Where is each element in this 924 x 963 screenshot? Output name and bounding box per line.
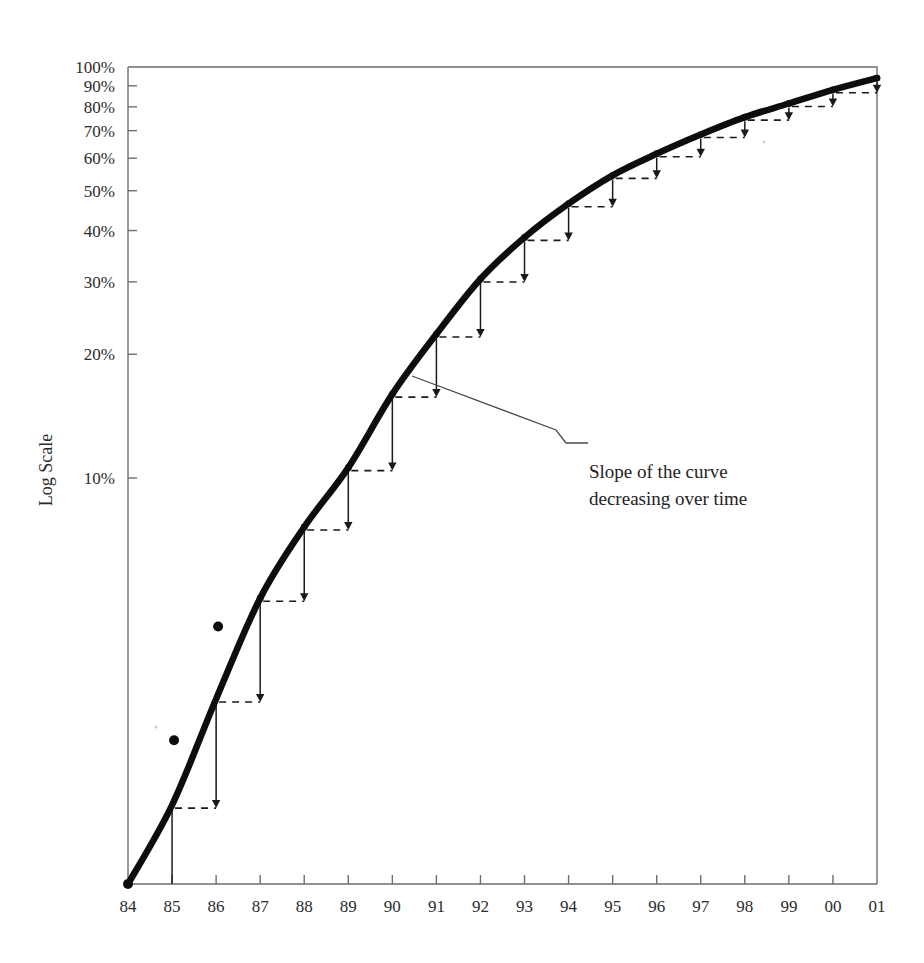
curve-point-dot <box>785 100 792 107</box>
curve-point-dot <box>389 391 396 398</box>
annotation-line-1: Slope of the curve <box>589 461 728 482</box>
chart-background <box>0 0 924 963</box>
y-tick-label: 40% <box>84 222 115 241</box>
y-tick-label: 70% <box>84 122 115 141</box>
scatter-dot <box>169 735 179 745</box>
curve-point-dot <box>830 86 837 93</box>
y-axis-title: Log Scale <box>36 434 56 506</box>
curve-point-dot <box>653 150 660 157</box>
y-tick-label: 80% <box>84 98 115 117</box>
x-tick-label: 96 <box>648 897 665 916</box>
y-tick-label: 50% <box>84 182 115 201</box>
curve-point-dot <box>565 200 572 207</box>
annotation-line-2: decreasing over time <box>589 488 747 509</box>
x-tick-label: 85 <box>164 897 181 916</box>
x-tick-label: 93 <box>516 897 533 916</box>
y-tick-label: 30% <box>84 273 115 292</box>
curve-point-dot <box>609 172 616 179</box>
origin-dot <box>123 879 133 889</box>
x-tick-label: 01 <box>869 897 886 916</box>
x-tick-label: 99 <box>780 897 797 916</box>
x-tick-label: 94 <box>560 897 578 916</box>
curve-point-dot <box>257 595 264 602</box>
curve-point-dot <box>345 464 352 471</box>
x-tick-label: 90 <box>384 897 401 916</box>
curve-point-dot <box>433 331 440 338</box>
x-tick-label: 92 <box>472 897 489 916</box>
x-tick-label: 88 <box>296 897 313 916</box>
curve-point-dot <box>301 524 308 531</box>
y-tick-label: 10% <box>84 469 115 488</box>
chart-figure: 100%90%80%70%60%50%40%30%20%10% 84858687… <box>0 0 924 963</box>
x-tick-label: 86 <box>208 897 225 916</box>
curve-point-dot <box>697 131 704 138</box>
y-tick-label: 90% <box>84 77 115 96</box>
x-tick-label: 91 <box>428 897 445 916</box>
x-tick-label: 98 <box>736 897 753 916</box>
curve-point-dot <box>521 234 528 241</box>
x-tick-label: 89 <box>340 897 357 916</box>
curve-point-dot <box>477 276 484 283</box>
x-tick-label: 00 <box>824 897 841 916</box>
y-tick-label: 20% <box>84 345 115 364</box>
y-tick-label: 60% <box>84 149 115 168</box>
x-tick-label: 87 <box>252 897 270 916</box>
curve-point-dot <box>741 114 748 121</box>
scatter-dot <box>213 622 223 632</box>
x-tick-label: 95 <box>604 897 621 916</box>
curve-point-dot <box>874 75 881 82</box>
y-tick-label: 100% <box>75 58 115 77</box>
x-tick-label: 84 <box>120 897 138 916</box>
log-scale-adoption-chart: 100%90%80%70%60%50%40%30%20%10% 84858687… <box>0 0 924 963</box>
x-tick-label: 97 <box>692 897 710 916</box>
